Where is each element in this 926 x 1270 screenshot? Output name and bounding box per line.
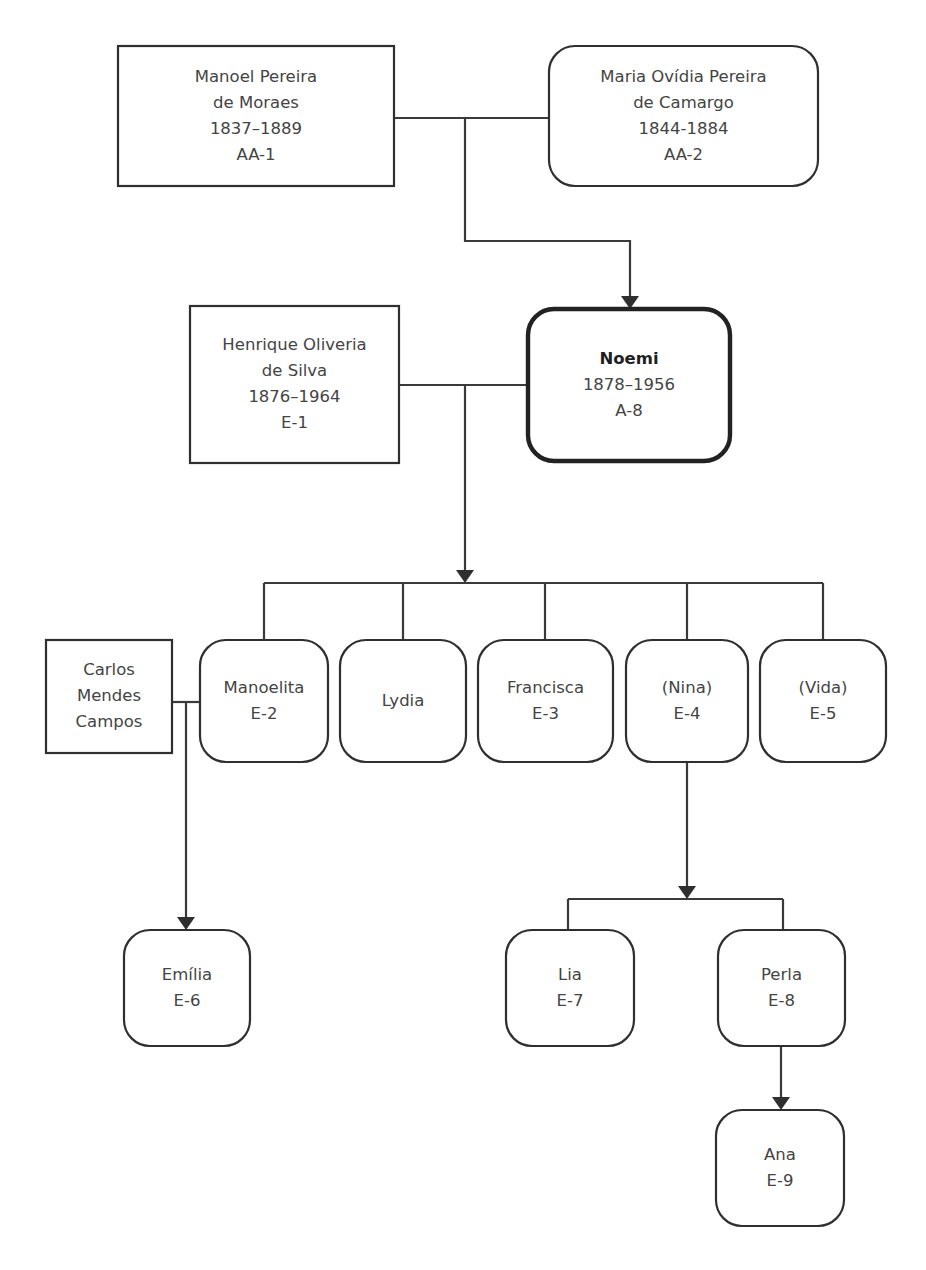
node-box-emilia[interactable] [124,930,250,1046]
node-henrique-oliveria-de-silva[interactable]: Henrique Oliveriade Silva1876–1964E-1 [190,306,399,463]
node-noemi[interactable]: Noemi1878–1956A-8 [528,309,730,461]
node-label-francisca-line-1: E-3 [532,704,559,723]
node-label-maria-ovidia-pereira-de-camargo-line-2: 1844-1884 [639,119,729,138]
node-label-perla-line-0: Perla [761,965,802,984]
node-francisca[interactable]: FranciscaE-3 [478,640,613,762]
node-lia[interactable]: LiaE-7 [506,930,634,1046]
node-lydia[interactable]: Lydia [340,640,466,762]
descent-link-nina-to-children-arrowhead [678,886,696,899]
node-maria-ovidia-pereira-de-camargo[interactable]: Maria Ovídia Pereirade Camargo1844-1884A… [549,46,818,186]
node-label-vida-line-0: (Vida) [799,678,848,697]
descent-link-carlos-to-emilia-arrowhead [177,917,195,930]
node-vida[interactable]: (Vida)E-5 [760,640,886,762]
node-label-manoelita-line-1: E-2 [251,704,278,723]
node-label-henrique-oliveria-de-silva-line-1: de Silva [262,361,327,380]
node-label-carlos-mendes-campos-line-1: Mendes [77,686,141,705]
node-label-noemi-line-0: Noemi [599,349,658,368]
node-label-ana-line-1: E-9 [767,1171,794,1190]
node-nina[interactable]: (Nina)E-4 [626,640,748,762]
node-label-manoel-pereira-de-moraes-line-2: 1837–1889 [210,119,302,138]
node-label-perla-line-1: E-8 [768,991,795,1010]
diagram-canvas: Manoel Pereirade Moraes1837–1889AA-1Mari… [0,0,926,1270]
node-emilia[interactable]: EmíliaE-6 [124,930,250,1046]
node-manoelita[interactable]: ManoelitaE-2 [200,640,328,762]
node-carlos-mendes-campos[interactable]: CarlosMendesCampos [46,640,172,753]
node-box-francisca[interactable] [478,640,613,762]
node-label-lydia-line-0: Lydia [382,691,425,710]
node-label-maria-ovidia-pereira-de-camargo-line-3: AA-2 [664,145,703,164]
node-box-henrique-oliveria-de-silva[interactable] [190,306,399,463]
node-label-henrique-oliveria-de-silva-line-2: 1876–1964 [248,387,340,406]
node-label-emilia-line-1: E-6 [174,991,201,1010]
node-label-maria-ovidia-pereira-de-camargo-line-1: de Camargo [633,93,734,112]
node-box-manoelita[interactable] [200,640,328,762]
node-box-lia[interactable] [506,930,634,1046]
node-label-noemi-line-2: A-8 [615,401,642,420]
node-label-carlos-mendes-campos-line-0: Carlos [83,660,135,679]
node-label-carlos-mendes-campos-line-2: Campos [76,712,143,731]
node-label-manoel-pereira-de-moraes-line-3: AA-1 [236,145,275,164]
descent-link-noemi-to-children-arrowhead [456,570,474,583]
node-label-lia-line-1: E-7 [557,991,584,1010]
node-label-henrique-oliveria-de-silva-line-3: E-1 [281,413,308,432]
node-perla[interactable]: PerlaE-8 [718,930,845,1046]
node-label-nina-line-1: E-4 [674,704,701,723]
node-box-ana[interactable] [716,1110,844,1226]
node-box-perla[interactable] [718,930,845,1046]
descent-link-perla-to-ana-arrowhead [772,1097,790,1110]
genealogy-diagram: Manoel Pereirade Moraes1837–1889AA-1Mari… [0,0,926,1270]
node-label-manoel-pereira-de-moraes-line-0: Manoel Pereira [195,67,317,86]
node-label-emilia-line-0: Emília [162,965,212,984]
node-manoel-pereira-de-moraes[interactable]: Manoel Pereirade Moraes1837–1889AA-1 [118,46,394,186]
node-label-henrique-oliveria-de-silva-line-0: Henrique Oliveria [222,335,366,354]
node-box-vida[interactable] [760,640,886,762]
node-label-manoel-pereira-de-moraes-line-1: de Moraes [213,93,299,112]
node-label-manoelita-line-0: Manoelita [224,678,305,697]
node-label-nina-line-0: (Nina) [662,678,712,697]
node-ana[interactable]: AnaE-9 [716,1110,844,1226]
node-label-ana-line-0: Ana [764,1145,796,1164]
node-label-noemi-line-1: 1878–1956 [583,375,675,394]
node-label-vida-line-1: E-5 [810,704,837,723]
node-label-francisca-line-0: Francisca [507,678,584,697]
node-box-nina[interactable] [626,640,748,762]
node-label-lia-line-0: Lia [558,965,582,984]
node-label-maria-ovidia-pereira-de-camargo-line-0: Maria Ovídia Pereira [600,67,766,86]
